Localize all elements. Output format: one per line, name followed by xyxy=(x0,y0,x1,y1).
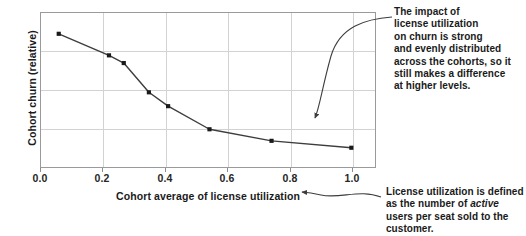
x-tick-label-1: 0.2 xyxy=(94,172,109,184)
x-tick-label-0: 0.0 xyxy=(32,172,47,184)
data-point xyxy=(57,32,61,36)
x-axis-title: Cohort average of license utilization xyxy=(40,190,376,202)
x-tick-label-5: 1.0 xyxy=(344,172,359,184)
data-point xyxy=(147,90,151,94)
data-point xyxy=(349,146,353,150)
data-point xyxy=(207,127,211,131)
annotation-bottom-note: License utilization is defined as the nu… xyxy=(386,186,524,236)
annotation-top-line-2: on churn is strong xyxy=(394,31,483,42)
annotation-top-line-6: at higher levels. xyxy=(394,80,470,91)
chart-figure: 0.0 0.2 0.4 0.6 0.8 1.0 Cohort average o… xyxy=(0,0,526,236)
series-polyline xyxy=(59,34,352,148)
annotation-bottom-emphasis: active xyxy=(470,198,499,209)
data-point xyxy=(122,61,126,65)
annotation-top-line-0: The impact of xyxy=(394,6,460,17)
series-markers xyxy=(57,32,354,150)
annotation-top-line-4: across the cohorts, so it xyxy=(394,56,511,67)
data-point xyxy=(107,53,111,57)
data-point xyxy=(166,104,170,108)
x-tick-label-4: 0.8 xyxy=(282,172,297,184)
annotation-bottom-suffix: users per seat sold to the customer. xyxy=(386,211,508,234)
annotation-bottom-prefix: License utilization is defined as the nu… xyxy=(386,186,524,209)
series-line-chart xyxy=(41,13,375,167)
x-tick-label-3: 0.6 xyxy=(219,172,234,184)
annotation-top-line-3: and evenly distributed xyxy=(394,43,501,54)
data-point xyxy=(269,139,273,143)
plot-area xyxy=(40,12,376,168)
annotation-top-note: The impact of license utilization on chu… xyxy=(394,6,522,93)
annotation-top-line-1: license utilization xyxy=(394,18,478,29)
x-tick-label-2: 0.4 xyxy=(157,172,172,184)
annotation-top-line-5: still makes a difference xyxy=(394,68,505,79)
y-axis-title: Cohort churn (relative) xyxy=(26,8,38,168)
